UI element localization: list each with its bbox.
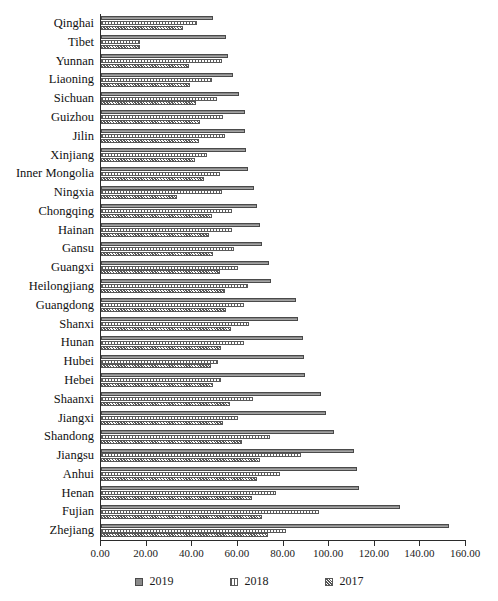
bar-jilin-2018 (101, 134, 225, 138)
y-axis-category-label: Henan (0, 486, 94, 500)
chart-row: Inner Mongolia (0, 164, 498, 183)
chart-row: Hebei (0, 371, 498, 390)
chart-row: Liaoning (0, 70, 498, 89)
legend-item-2018[interactable]: 2018 (230, 575, 269, 588)
chart-row: Heilongjiang (0, 277, 498, 296)
bar-henan-2017 (101, 496, 252, 500)
y-axis-category-label: Sichuan (0, 91, 94, 105)
bar-ningxia-2019 (101, 186, 254, 190)
bar-hainan-2017 (101, 233, 209, 237)
bar-guangdong-2018 (101, 303, 244, 307)
series-2019-swatch (135, 578, 143, 586)
bar-qinghai-2017 (101, 26, 183, 30)
bar-hebei-2019 (101, 373, 305, 377)
bar-anhui-2018 (101, 472, 280, 476)
bar-inner-mongolia-2017 (101, 177, 204, 181)
bar-tibet-2019 (101, 35, 226, 39)
bar-gansu-2019 (101, 242, 262, 246)
chart-row: Shaanxi (0, 390, 498, 409)
chart-row: Fujian (0, 502, 498, 521)
y-axis-category-label: Inner Mongolia (0, 166, 94, 180)
chart-row: Ningxia (0, 183, 498, 202)
bar-henan-2019 (101, 486, 359, 490)
bar-hunan-2017 (101, 346, 221, 350)
chart-row: Anhui (0, 465, 498, 484)
bar-jiangxi-2017 (101, 421, 223, 425)
bar-shaanxi-2019 (101, 392, 321, 396)
legend-item-2019[interactable]: 2019 (135, 575, 174, 588)
x-axis-tick-mark (283, 541, 284, 546)
bar-henan-2018 (101, 491, 276, 495)
scan-artifact (0, 0, 498, 10)
y-axis-category-label: Chongqing (0, 204, 94, 218)
bar-shandong-2018 (101, 435, 270, 439)
x-axis-tick-mark (100, 541, 101, 546)
y-axis-category-label: Shaanxi (0, 392, 94, 406)
chart-row: Xinjiang (0, 146, 498, 165)
bar-chart: 0.0020.0040.0060.0080.00100.00120.00140.… (0, 0, 498, 601)
bar-jilin-2019 (101, 129, 245, 133)
bar-jiangsu-2017 (101, 458, 260, 462)
series-2017-swatch (325, 578, 333, 586)
bar-hubei-2017 (101, 364, 211, 368)
chart-row: Qinghai (0, 14, 498, 33)
chart-row: Sichuan (0, 89, 498, 108)
legend-item-2017[interactable]: 2017 (325, 575, 364, 588)
bar-chongqing-2019 (101, 204, 257, 208)
bar-gansu-2018 (101, 247, 234, 251)
chart-row: Tibet (0, 33, 498, 52)
y-axis-category-label: Shandong (0, 429, 94, 443)
y-axis-category-label: Xinjiang (0, 148, 94, 162)
chart-row: Guizhou (0, 108, 498, 127)
bar-hainan-2019 (101, 223, 260, 227)
bar-qinghai-2018 (101, 21, 197, 25)
x-axis-tick-mark (146, 541, 147, 546)
bar-chongqing-2017 (101, 214, 212, 218)
bar-liaoning-2017 (101, 83, 190, 87)
bar-guangdong-2017 (101, 308, 226, 312)
bar-fujian-2018 (101, 510, 319, 514)
bar-tibet-2017 (101, 45, 140, 49)
bar-hubei-2018 (101, 360, 218, 364)
y-axis-category-label: Gansu (0, 241, 94, 255)
bar-qinghai-2019 (101, 16, 213, 20)
chart-row: Shandong (0, 427, 498, 446)
bar-guizhou-2019 (101, 110, 245, 114)
bar-heilongjiang-2018 (101, 284, 248, 288)
y-axis-category-label: Hubei (0, 354, 94, 368)
x-axis-tick-mark (328, 541, 329, 546)
bar-yunnan-2018 (101, 59, 222, 63)
bar-gansu-2017 (101, 252, 213, 256)
chart-row: Jilin (0, 127, 498, 146)
y-axis-category-label: Zhejiang (0, 523, 94, 537)
chart-row: Chongqing (0, 202, 498, 221)
bar-hebei-2018 (101, 378, 221, 382)
y-axis-category-label: Guangdong (0, 298, 94, 312)
chart-row: Hainan (0, 221, 498, 240)
bar-inner-mongolia-2019 (101, 167, 248, 171)
bar-jilin-2017 (101, 139, 199, 143)
bar-shaanxi-2017 (101, 402, 230, 406)
bar-guangxi-2019 (101, 261, 269, 265)
x-axis-tick-mark (191, 541, 192, 546)
bar-hainan-2018 (101, 228, 232, 232)
y-axis-category-label: Tibet (0, 35, 94, 49)
y-axis-category-label: Shanxi (0, 317, 94, 331)
bar-zhejiang-2017 (101, 533, 268, 537)
bar-ningxia-2018 (101, 190, 222, 194)
bar-anhui-2019 (101, 467, 357, 471)
bar-fujian-2019 (101, 505, 400, 509)
bar-jiangsu-2019 (101, 449, 354, 453)
y-axis-category-label: Fujian (0, 504, 94, 518)
bar-xinjiang-2018 (101, 153, 207, 157)
bar-liaoning-2019 (101, 73, 233, 77)
y-axis-category-label: Ningxia (0, 185, 94, 199)
bar-jiangxi-2018 (101, 416, 238, 420)
y-axis-category-label: Hunan (0, 335, 94, 349)
bar-guangdong-2019 (101, 298, 296, 302)
bar-ningxia-2017 (101, 195, 177, 199)
x-axis-tick-mark (419, 541, 420, 546)
bar-shaanxi-2018 (101, 397, 253, 401)
bar-xinjiang-2017 (101, 158, 195, 162)
y-axis-category-label: Yunnan (0, 54, 94, 68)
